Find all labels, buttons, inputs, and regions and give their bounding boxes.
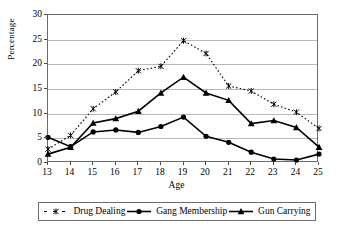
data-point-marker [180, 74, 187, 80]
data-point-marker [316, 152, 321, 157]
legend-sample-x-asterisk-icon [43, 206, 69, 217]
plot-area [47, 14, 318, 162]
x-tick-label: 19 [172, 167, 194, 177]
data-point-marker [181, 38, 186, 44]
x-tick-mark [228, 162, 229, 165]
series-line [48, 117, 319, 160]
legend-entry[interactable]: Drug Dealing [43, 206, 125, 217]
y-axis-title: Percentage [6, 0, 16, 84]
chart-legend: Drug DealingGang MembershipGun Carrying [38, 202, 316, 221]
data-point-marker [203, 134, 208, 139]
data-point-marker [294, 109, 299, 115]
data-point-marker [226, 140, 231, 145]
data-point-marker [249, 88, 254, 94]
y-tick-label: 20 [16, 58, 42, 68]
data-point-marker [158, 124, 163, 129]
x-tick-mark [295, 162, 296, 165]
data-point-marker [271, 101, 276, 107]
x-axis-title: Age [0, 180, 353, 190]
x-tick-label: 14 [59, 167, 81, 177]
y-tick-mark [44, 88, 47, 89]
x-tick-label: 22 [239, 167, 261, 177]
data-point-marker [137, 209, 142, 214]
y-tick-label: 25 [16, 34, 42, 44]
data-point-marker [113, 89, 118, 95]
legend-entry[interactable]: Gun Carrying [228, 206, 311, 217]
y-tick-mark [44, 14, 47, 15]
x-tick-mark [273, 162, 274, 165]
y-tick-mark [44, 113, 47, 114]
legend-sample-circle-icon [126, 206, 152, 217]
y-tick-label: 30 [16, 9, 42, 19]
data-point-marker [181, 115, 186, 120]
legend-label: Gang Membership [156, 206, 227, 217]
legend-label: Drug Dealing [73, 206, 125, 217]
data-point-marker [91, 106, 96, 112]
data-point-marker [68, 132, 73, 138]
x-tick-label: 23 [262, 167, 284, 177]
y-tick-mark [44, 63, 47, 64]
y-tick-label: 0 [16, 157, 42, 167]
data-point-marker [203, 50, 208, 56]
data-point-marker [271, 156, 276, 161]
x-tick-mark [47, 162, 48, 165]
legend-sample-triangle-icon [228, 206, 254, 217]
x-tick-mark [70, 162, 71, 165]
data-point-marker [113, 127, 118, 132]
x-tick-label: 20 [194, 167, 216, 177]
y-tick-mark [44, 39, 47, 40]
x-tick-label: 15 [81, 167, 103, 177]
y-tick-label: 5 [16, 132, 42, 142]
x-tick-label: 17 [126, 167, 148, 177]
x-tick-label: 25 [307, 167, 329, 177]
x-tick-mark [183, 162, 184, 165]
x-tick-mark [115, 162, 116, 165]
x-tick-mark [205, 162, 206, 165]
data-point-marker [316, 125, 321, 131]
x-tick-mark [160, 162, 161, 165]
data-point-marker [226, 83, 231, 89]
x-tick-label: 13 [36, 167, 58, 177]
data-point-marker [249, 150, 254, 155]
x-tick-label: 18 [149, 167, 171, 177]
data-point-marker [136, 130, 141, 135]
x-tick-label: 24 [284, 167, 306, 177]
y-tick-label: 10 [16, 108, 42, 118]
legend-entry[interactable]: Gang Membership [126, 206, 227, 217]
series-line [48, 41, 319, 150]
x-tick-mark [92, 162, 93, 165]
line-chart-figure: Percentage 051015202530 1314151617181920… [0, 0, 353, 234]
y-tick-mark [44, 137, 47, 138]
y-tick-label: 15 [16, 83, 42, 93]
data-point-marker [91, 129, 96, 134]
x-tick-mark [137, 162, 138, 165]
series-layer [48, 15, 319, 163]
legend-label: Gun Carrying [258, 206, 311, 217]
x-tick-mark [318, 162, 319, 165]
x-tick-label: 16 [104, 167, 126, 177]
x-tick-mark [250, 162, 251, 165]
x-tick-label: 21 [217, 167, 239, 177]
